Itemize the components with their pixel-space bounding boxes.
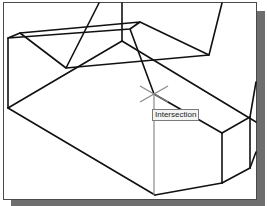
wireframe-edges (8, 3, 256, 195)
crosshair-cursor-icon (140, 86, 168, 195)
wireframe-drawing[interactable] (0, 0, 267, 206)
snap-tooltip: Intersection (152, 109, 199, 121)
